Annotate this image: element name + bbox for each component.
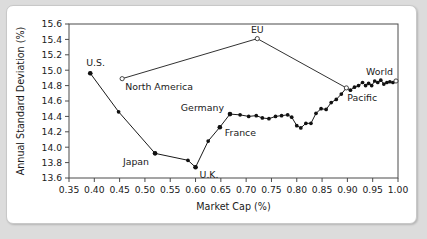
x-tick-label: 0.55	[160, 184, 181, 195]
data-point	[339, 92, 343, 96]
y-tick-label: 15.6	[42, 18, 63, 29]
annotation-label-eu: EU	[251, 24, 264, 35]
data-point	[379, 78, 383, 82]
x-tick-label: 0.85	[312, 184, 333, 195]
data-point	[324, 108, 328, 112]
annotation-label-france: France	[225, 127, 256, 138]
data-point	[238, 113, 242, 117]
annotation-labels: U.S.North AmericaEUJapanU.K.FranceGerman…	[86, 24, 393, 181]
highlight-point-japan	[153, 151, 158, 156]
data-point	[290, 115, 294, 119]
y-tick-label: 14.8	[42, 80, 63, 91]
x-tick-label: 0.45	[109, 184, 130, 195]
y-axis-title: Annual Standard Deviation (%)	[15, 27, 26, 176]
y-tick-label: 14.4	[42, 111, 63, 122]
highlight-point-world	[394, 79, 398, 83]
highlight-point-north-america	[120, 77, 124, 81]
data-point	[299, 126, 303, 130]
annotation-label-north-america: North America	[125, 81, 193, 92]
x-tick-label: 0.65	[211, 184, 232, 195]
data-point	[247, 115, 251, 119]
x-tick-label: 0.70	[236, 184, 257, 195]
axis-tickmarks	[65, 24, 398, 182]
data-point	[329, 101, 333, 105]
data-point	[361, 81, 365, 85]
highlight-point-france	[218, 125, 223, 130]
data-point	[314, 111, 318, 115]
chart-layers: 13.613.814.014.214.414.614.815.015.215.4…	[15, 18, 408, 212]
data-point	[295, 124, 299, 128]
data-point	[334, 98, 338, 102]
data-point	[267, 117, 271, 121]
y-tick-label: 15.4	[42, 34, 63, 45]
x-tick-label: 0.40	[84, 184, 105, 195]
data-point	[370, 84, 374, 88]
data-point	[357, 84, 361, 88]
data-point	[309, 121, 313, 125]
highlight-point-pacific	[344, 86, 348, 90]
figure-card: 13.613.814.014.214.414.614.815.015.215.4…	[6, 5, 417, 224]
data-point	[364, 84, 368, 88]
highlight-point-eu	[255, 37, 259, 41]
x-tick-label: 1.00	[388, 184, 409, 195]
data-point	[186, 158, 190, 162]
data-point	[353, 85, 357, 89]
annotation-label-world: World	[366, 66, 393, 77]
x-tick-label: 0.75	[261, 184, 282, 195]
annotation-label-pacific: Pacific	[347, 92, 377, 103]
data-point	[280, 114, 284, 118]
annotation-label-germany: Germany	[181, 102, 225, 113]
annotation-label-japan: Japan	[122, 156, 149, 167]
y-tick-label: 13.8	[42, 157, 63, 168]
x-tick-label: 0.95	[362, 184, 383, 195]
data-point	[286, 113, 290, 117]
y-tick-label: 13.6	[42, 172, 63, 183]
data-point	[376, 81, 380, 85]
data-point	[261, 116, 265, 120]
y-tick-label: 14.6	[42, 95, 63, 106]
connector-line	[122, 39, 257, 79]
x-tick-label: 0.60	[185, 184, 206, 195]
highlight-point-u-k	[193, 165, 198, 170]
highlight-markers	[88, 37, 398, 170]
annotation-label-u-k: U.K.	[200, 169, 219, 180]
data-point	[206, 139, 210, 143]
highlight-point-germany	[228, 112, 233, 117]
scatter-line-chart: 13.613.814.014.214.414.614.815.015.215.4…	[7, 6, 418, 225]
highlight-point-u-s	[88, 71, 93, 76]
data-point	[304, 121, 308, 125]
data-point	[274, 115, 278, 119]
connector-line	[257, 39, 346, 88]
y-tick-label: 14.2	[42, 126, 62, 137]
y-axis-tick-labels: 13.613.814.014.214.414.614.815.015.215.4…	[42, 18, 63, 183]
y-tick-label: 15.2	[42, 49, 62, 60]
data-point	[367, 81, 371, 85]
data-point	[319, 107, 323, 111]
y-tick-label: 14.0	[42, 142, 63, 153]
annotation-label-u-s: U.S.	[86, 57, 105, 68]
data-point	[254, 114, 258, 118]
x-tick-label: 0.50	[135, 184, 156, 195]
y-tick-label: 15.0	[42, 65, 63, 76]
x-axis-tick-labels: 0.350.400.450.500.550.600.650.700.750.80…	[59, 184, 409, 195]
x-tick-label: 0.80	[287, 184, 308, 195]
data-point	[117, 110, 121, 114]
x-tick-label: 0.90	[337, 184, 358, 195]
x-axis-title: Market Cap (%)	[196, 201, 270, 212]
x-tick-label: 0.35	[59, 184, 80, 195]
